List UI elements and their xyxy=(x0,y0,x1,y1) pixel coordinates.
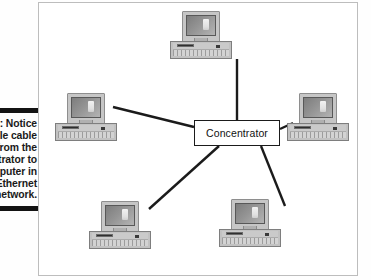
screen-glare xyxy=(203,19,209,30)
computer-base-unit xyxy=(287,123,349,141)
computer-bottom-left[interactable] xyxy=(89,201,151,249)
keyboard-keys xyxy=(173,49,229,56)
computer-base-unit xyxy=(89,231,151,249)
keyboard-keys xyxy=(290,131,346,138)
caption-top-rule xyxy=(0,108,38,113)
monitor-icon xyxy=(101,201,139,233)
monitor-screen xyxy=(235,203,265,224)
figure-number-label: Figure 3-2: xyxy=(0,118,3,129)
computer-base-unit xyxy=(219,229,281,247)
power-indicator-icon xyxy=(101,127,105,130)
computer-right[interactable] xyxy=(287,93,349,141)
drive-slot-icon xyxy=(96,234,113,237)
screen-glare xyxy=(320,101,326,112)
monitor-screen xyxy=(186,15,216,36)
concentrator-label: Concentrator xyxy=(206,127,268,139)
power-indicator-icon xyxy=(265,233,269,236)
drive-slot-icon xyxy=(177,44,194,47)
power-indicator-icon xyxy=(216,45,220,48)
figure-caption-text: Figure 3-2: Notice the multiple cable ru… xyxy=(0,118,38,201)
screen-glare xyxy=(252,207,258,218)
power-indicator-icon xyxy=(333,127,337,130)
keyboard-keys xyxy=(92,239,148,246)
monitor-icon xyxy=(67,93,105,125)
drive-slot-icon xyxy=(226,232,243,235)
concentrator-box[interactable]: Concentrator xyxy=(194,120,280,146)
network-link xyxy=(261,146,285,206)
monitor-icon xyxy=(299,93,337,125)
keyboard-keys xyxy=(222,237,278,244)
computer-base-unit xyxy=(55,123,117,141)
drive-slot-icon xyxy=(294,126,311,129)
network-link xyxy=(149,146,219,209)
keyboard-keys xyxy=(58,131,114,138)
computer-top[interactable] xyxy=(170,11,232,59)
network-link xyxy=(113,107,194,127)
monitor-screen xyxy=(105,205,135,226)
figure-page: Figure 3-2: Notice the multiple cable ru… xyxy=(0,0,371,280)
screen-glare xyxy=(122,209,128,220)
monitor-icon xyxy=(231,199,269,231)
figure-caption-body: Notice the multiple cable runs from the … xyxy=(0,118,37,200)
monitor-icon xyxy=(182,11,220,43)
computer-base-unit xyxy=(170,41,232,59)
figure-caption-block: Figure 3-2: Notice the multiple cable ru… xyxy=(0,108,38,211)
monitor-screen xyxy=(71,97,101,118)
monitor-screen xyxy=(303,97,333,118)
diagram-canvas: Concentrator xyxy=(39,3,357,275)
computer-left[interactable] xyxy=(55,93,117,141)
caption-bottom-rule xyxy=(0,206,38,211)
screen-glare xyxy=(88,101,94,112)
computer-bottom-right[interactable] xyxy=(219,199,281,247)
drive-slot-icon xyxy=(62,126,79,129)
diagram-frame: Concentrator xyxy=(38,2,358,276)
power-indicator-icon xyxy=(135,235,139,238)
